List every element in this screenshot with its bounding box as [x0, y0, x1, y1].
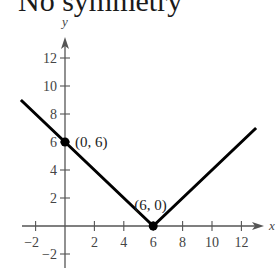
x-tick-label: 4: [120, 235, 127, 250]
x-tick-label: 8: [179, 235, 186, 250]
y-tick-label: 12: [43, 51, 57, 66]
x-axis-label: x: [268, 218, 275, 233]
y-tick-label: 2: [50, 191, 57, 206]
x-tick-label: 6: [150, 235, 157, 250]
data-point: [61, 138, 70, 147]
y-tick-label: 10: [43, 79, 57, 94]
y-axis-label: y: [60, 14, 68, 29]
y-tick-label: −2: [42, 247, 57, 262]
chart-plot: xy−224681012−224681012(0, 6)(6, 0): [0, 0, 278, 271]
data-point: [149, 222, 158, 231]
point-label: (6, 0): [134, 197, 167, 214]
x-tick-label: −2: [24, 235, 39, 250]
x-tick-label: 2: [91, 235, 98, 250]
y-tick-label: 4: [50, 163, 57, 178]
x-tick-label: 10: [205, 235, 219, 250]
x-tick-label: 12: [234, 235, 248, 250]
point-label: (0, 6): [75, 134, 108, 151]
y-tick-label: 6: [50, 135, 57, 150]
y-tick-label: 8: [50, 107, 57, 122]
